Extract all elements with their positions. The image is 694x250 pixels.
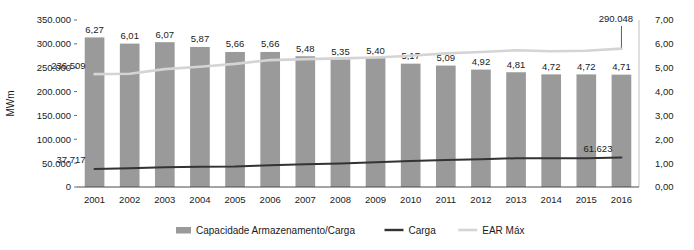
y-tick-label: 0: [66, 181, 71, 192]
bar-value-label: 6,27: [85, 24, 104, 35]
x-tick-label: 2004: [189, 194, 210, 205]
y-axis-title-group: MWm: [5, 90, 16, 116]
bar: [612, 75, 632, 187]
legend-label: Capacidade Armazenamento/Carga: [196, 225, 355, 236]
bar: [260, 52, 280, 187]
y2-tick-label: 6,00: [655, 38, 674, 49]
y-tick-label: 200.000: [37, 86, 71, 97]
y2-tick-label: 0,00: [655, 181, 674, 192]
legend-swatch-bar: [176, 227, 191, 234]
bar-value-label: 5,40: [366, 45, 385, 56]
bar: [436, 66, 456, 187]
bar: [471, 70, 491, 187]
bar-value-label: 5,35: [331, 46, 350, 57]
x-tick-label: 2012: [470, 194, 491, 205]
bar: [85, 37, 105, 187]
bar-value-label: 5,48: [296, 43, 315, 54]
bar-value-label: 5,66: [261, 38, 280, 49]
combo-chart: MWm 050.000100.000150.000200.000250.0003…: [0, 0, 694, 250]
bar: [295, 56, 315, 187]
x-tick-label: 2011: [436, 194, 456, 205]
y-tick-label: 100.000: [37, 134, 71, 145]
y2-tick-label: 7,00: [655, 14, 674, 25]
bar: [120, 44, 140, 187]
x-tick-label: 2002: [119, 194, 140, 205]
x-tick-label: 2013: [505, 194, 526, 205]
bar-value-label: 5,87: [191, 33, 210, 44]
y-axis-right-ticks: 0,001,002,003,004,005,006,007,00: [639, 14, 674, 192]
bar: [506, 72, 526, 187]
chart-container: MWm 050.000100.000150.000200.000250.0003…: [0, 0, 694, 250]
point-annotation: 290.048: [599, 13, 633, 24]
y-tick-label: 350.000: [37, 14, 71, 25]
bar: [155, 42, 175, 187]
bar-value-label: 4,72: [577, 61, 596, 72]
chart-legend: Capacidade Armazenamento/CargaCargaEAR M…: [176, 225, 524, 236]
bar-value-label: 5,66: [226, 38, 245, 49]
bar-value-label: 6,07: [156, 29, 175, 40]
x-tick-label: 2006: [260, 194, 281, 205]
y-tick-label: 300.000: [37, 38, 71, 49]
bar-value-label: 4,71: [612, 61, 631, 72]
x-tick-label: 2010: [400, 194, 421, 205]
bar-value-label: 4,81: [507, 59, 526, 70]
bar: [401, 64, 421, 187]
bar-value-label: 4,72: [542, 61, 561, 72]
legend-label: Carga: [409, 225, 437, 236]
y-axis-title: MWm: [5, 90, 16, 116]
x-tick-label: 2007: [295, 194, 316, 205]
y2-tick-label: 3,00: [655, 110, 674, 121]
x-tick-label: 2008: [330, 194, 351, 205]
point-annotation: 37.717: [57, 154, 86, 165]
bar-series-group: [85, 37, 632, 187]
bar-value-label: 4,92: [472, 56, 491, 67]
y2-tick-label: 5,00: [655, 62, 674, 73]
x-tick-label: 2016: [611, 194, 632, 205]
point-annotation: 236.509: [51, 60, 85, 71]
y2-tick-label: 1,00: [655, 158, 674, 169]
y2-tick-label: 4,00: [655, 86, 674, 97]
bar: [366, 58, 386, 187]
x-tick-label: 2003: [154, 194, 175, 205]
y-tick-label: 150.000: [37, 110, 71, 121]
bar: [576, 74, 596, 187]
x-tick-label: 2005: [224, 194, 245, 205]
y2-tick-label: 2,00: [655, 134, 674, 145]
bar-value-label: 6,01: [120, 30, 139, 41]
bar: [331, 59, 351, 187]
x-tick-label: 2014: [541, 194, 562, 205]
x-tick-label: 2015: [576, 194, 597, 205]
y-axis-left-ticks: 050.000100.000150.000200.000250.000300.0…: [37, 14, 77, 192]
x-tick-label: 2009: [365, 194, 386, 205]
x-axis-tick-labels: 2001200220032004200520062007200820092010…: [84, 194, 632, 205]
bar: [541, 74, 561, 187]
x-tick-label: 2001: [84, 194, 105, 205]
legend-label: EAR Máx: [482, 225, 524, 236]
point-annotation: 61.623: [583, 143, 612, 154]
